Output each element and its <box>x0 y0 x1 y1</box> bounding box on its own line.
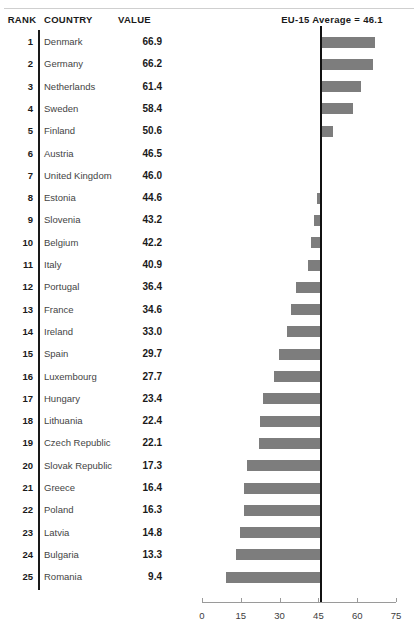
cell-rank: 18 <box>6 410 33 432</box>
bar <box>263 393 322 404</box>
table-row: 23Latvia14.8 <box>0 522 418 544</box>
cell-rank: 14 <box>6 321 33 343</box>
table-row: 19Czech Republic22.1 <box>0 432 418 454</box>
x-axis-tick <box>241 598 242 602</box>
table-row: 24Bulgaria13.3 <box>0 544 418 566</box>
cell-value: 44.6 <box>118 187 162 209</box>
cell-value: 43.2 <box>118 209 162 231</box>
bar <box>321 81 361 92</box>
table-row: 16Luxembourg27.7 <box>0 366 418 388</box>
bar <box>244 483 321 494</box>
bar <box>321 103 353 114</box>
cell-value: 46.0 <box>118 165 162 187</box>
table-row: 2Germany66.2 <box>0 53 418 75</box>
cell-country: Portugal <box>44 276 79 298</box>
bar <box>244 505 321 516</box>
cell-country: Latvia <box>44 522 69 544</box>
cell-country: Czech Republic <box>44 432 111 454</box>
table-row: 13France34.6 <box>0 299 418 321</box>
cell-country: Estonia <box>44 187 76 209</box>
cell-value: 42.2 <box>118 232 162 254</box>
cell-value: 23.4 <box>118 388 162 410</box>
column-header-rank: RANK <box>6 14 38 25</box>
table-row: 8Estonia44.6 <box>0 187 418 209</box>
cell-value: 16.4 <box>118 477 162 499</box>
cell-value: 34.6 <box>118 299 162 321</box>
bar <box>226 572 321 583</box>
cell-value: 13.3 <box>118 544 162 566</box>
eu15-average-line <box>320 26 322 602</box>
cell-value: 27.7 <box>118 366 162 388</box>
cell-value: 29.7 <box>118 343 162 365</box>
bar <box>240 527 321 538</box>
cell-value: 66.2 <box>118 53 162 75</box>
cell-value: 36.4 <box>118 276 162 298</box>
cell-country: Denmark <box>44 31 83 53</box>
bar <box>279 349 321 360</box>
x-axis-tick-label: 0 <box>187 610 217 621</box>
cell-country: France <box>44 299 74 321</box>
cell-value: 61.4 <box>118 76 162 98</box>
x-axis-tick <box>202 598 203 602</box>
cell-rank: 1 <box>6 31 33 53</box>
cell-country: United Kingdom <box>44 165 112 187</box>
table-row: 6Austria46.5 <box>0 143 418 165</box>
bar <box>274 371 322 382</box>
cell-country: Bulgaria <box>44 544 79 566</box>
cell-value: 16.3 <box>118 499 162 521</box>
cell-value: 58.4 <box>118 98 162 120</box>
cell-country: Poland <box>44 499 74 521</box>
cell-country: Sweden <box>44 98 78 120</box>
table-row: 7United Kingdom46.0 <box>0 165 418 187</box>
cell-rank: 15 <box>6 343 33 365</box>
cell-value: 14.8 <box>118 522 162 544</box>
cell-country: Hungary <box>44 388 80 410</box>
table-row: 25Romania9.4 <box>0 566 418 588</box>
cell-rank: 13 <box>6 299 33 321</box>
x-axis-tick-label: 75 <box>381 610 411 621</box>
cell-rank: 8 <box>6 187 33 209</box>
bar <box>236 549 321 560</box>
x-axis-tick <box>280 598 281 602</box>
cell-rank: 5 <box>6 120 33 142</box>
table-row: 1Denmark66.9 <box>0 31 418 53</box>
cell-country: Greece <box>44 477 75 499</box>
cell-country: Finland <box>44 120 75 142</box>
x-axis-tick-label: 60 <box>342 610 372 621</box>
cell-country: Slovak Republic <box>44 455 112 477</box>
cell-rank: 25 <box>6 566 33 588</box>
bar <box>259 438 321 449</box>
bar <box>291 304 321 315</box>
cell-rank: 4 <box>6 98 33 120</box>
cell-country: Lithuania <box>44 410 83 432</box>
cell-country: Spain <box>44 343 68 365</box>
cell-rank: 2 <box>6 53 33 75</box>
table-row: 12Portugal36.4 <box>0 276 418 298</box>
cell-rank: 3 <box>6 76 33 98</box>
cell-rank: 19 <box>6 432 33 454</box>
table-row: 18Lithuania22.4 <box>0 410 418 432</box>
table-row: 9Slovenia43.2 <box>0 209 418 231</box>
cell-value: 17.3 <box>118 455 162 477</box>
cell-rank: 11 <box>6 254 33 276</box>
bar <box>287 326 321 337</box>
cell-value: 50.6 <box>118 120 162 142</box>
cell-value: 40.9 <box>118 254 162 276</box>
cell-rank: 6 <box>6 143 33 165</box>
table-row: 14Ireland33.0 <box>0 321 418 343</box>
bar <box>321 59 373 70</box>
cell-country: Italy <box>44 254 61 276</box>
column-header-value: VALUE <box>118 14 151 25</box>
table-row: 17Hungary23.4 <box>0 388 418 410</box>
cell-rank: 17 <box>6 388 33 410</box>
cell-rank: 24 <box>6 544 33 566</box>
cell-country: Romania <box>44 566 82 588</box>
cell-country: Luxembourg <box>44 366 97 388</box>
table-row: 5Finland50.6 <box>0 120 418 142</box>
cell-rank: 23 <box>6 522 33 544</box>
column-header-country: COUNTRY <box>44 14 93 25</box>
cell-value: 9.4 <box>118 566 162 588</box>
top-divider <box>4 8 414 9</box>
cell-rank: 7 <box>6 165 33 187</box>
cell-rank: 16 <box>6 366 33 388</box>
